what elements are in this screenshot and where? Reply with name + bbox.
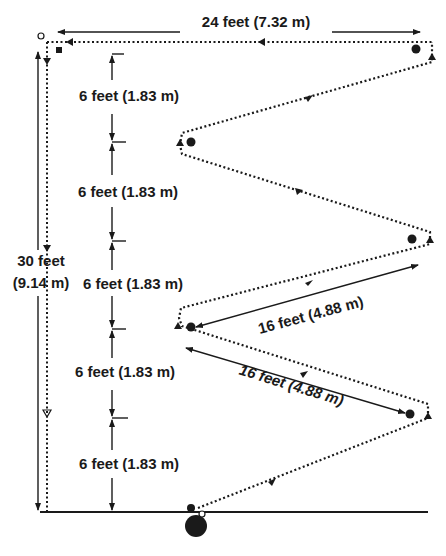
height-label-line1: 30 feet — [17, 252, 65, 269]
zigzag-path — [179, 42, 432, 508]
segment-label-2: 6 feet (1.83 m) — [78, 183, 178, 200]
cone-middle-left — [187, 323, 196, 332]
corner-open-circle — [38, 33, 44, 39]
width-label: 24 feet (7.32 m) — [202, 13, 310, 30]
cone-middle-right — [408, 235, 417, 244]
segment-label-4: 6 feet (1.83 m) — [75, 363, 175, 380]
start-ball-icon — [185, 515, 207, 537]
course-diagram: 24 feet (7.32 m) 30 feet (9.14 m) 6 feet… — [0, 0, 446, 556]
diag-lower-label: 16 feet (4.88 m) — [237, 361, 346, 409]
cone-lower-right — [406, 410, 415, 419]
cone-start — [187, 504, 195, 512]
segment-label-5: 6 feet (1.83 m) — [79, 455, 179, 472]
diag-upper-label: 16 feet (4.88 m) — [256, 292, 365, 336]
height-label-line2: (9.14 m) — [13, 274, 70, 291]
cone-upper-left — [187, 138, 196, 147]
start-open-circle — [199, 511, 205, 517]
finish-square-icon — [56, 47, 62, 53]
segment-label-1: 6 feet (1.83 m) — [79, 87, 179, 104]
cone-top-right — [412, 45, 421, 54]
segment-label-3: 6 feet (1.83 m) — [83, 275, 183, 292]
